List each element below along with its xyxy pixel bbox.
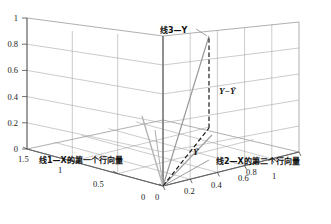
y-tick-3: 0 — [141, 192, 145, 202]
y-tick-2: 0.5 — [93, 179, 104, 189]
z-tick-0: 1 — [14, 13, 18, 23]
annotation-line1: 线1—X的第一个行向量 — [39, 155, 123, 165]
y-tick-0: 1.5 — [18, 154, 29, 164]
z-tick-3: 0.4 — [7, 92, 18, 102]
three-d-plot: 1 0.8 0.6 0.4 0.2 0 1.5 1 0.5 0 0 0.2 0.… — [0, 0, 331, 224]
x-tick-4: 0.8 — [246, 167, 257, 177]
x-tick-5: 1 — [272, 171, 276, 181]
z-axis-ticks — [22, 18, 27, 149]
x-tick-2: 0.4 — [211, 180, 222, 190]
z-tick-labels: 1 0.8 0.6 0.4 0.2 0 — [7, 13, 18, 154]
z-tick-4: 0.2 — [7, 118, 18, 128]
z-tick-2: 0.6 — [7, 65, 18, 75]
annotation-residual: Y−Ỹ — [219, 86, 237, 96]
z-tick-5: 0 — [14, 144, 18, 154]
x-tick-0: 0 — [155, 192, 159, 202]
annotation-line2: 线2—X的第二个行向量 — [216, 156, 300, 166]
annotation-line3: 线3—Y — [160, 25, 188, 35]
figure-canvas: 1 0.8 0.6 0.4 0.2 0 1.5 1 0.5 0 0 0.2 0.… — [0, 0, 331, 224]
x-tick-1: 0.2 — [184, 186, 195, 196]
y-tick-1: 1 — [58, 165, 62, 175]
z-tick-1: 0.8 — [7, 39, 18, 49]
